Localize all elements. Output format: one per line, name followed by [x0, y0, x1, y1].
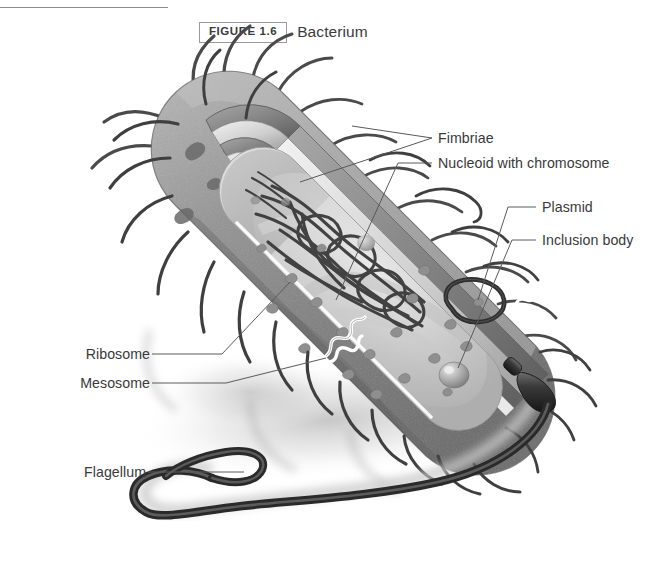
inclusion-body [439, 362, 469, 388]
bacterium-illustration [0, 0, 663, 576]
label-flagellum: Flagellum [0, 464, 146, 480]
label-mesosome: Mesosome [0, 375, 150, 391]
label-fimbriae: Fimbriae [438, 130, 494, 146]
label-ribosome: Ribosome [0, 346, 150, 362]
label-nucleoid: Nucleoid with chromosome [438, 155, 610, 171]
label-inclusion-body: Inclusion body [542, 232, 633, 248]
figure-page: FIGURE 1.6 Bacterium [0, 0, 663, 576]
label-plasmid: Plasmid [542, 199, 593, 215]
